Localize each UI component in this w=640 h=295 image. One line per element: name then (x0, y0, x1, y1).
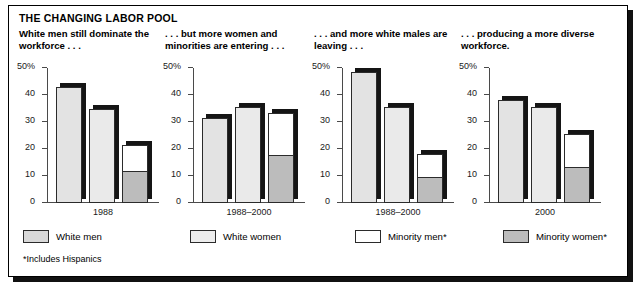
y-axis-tick: 20 (484, 148, 489, 149)
panel-title: . . . but more women and minorities are … (165, 28, 315, 51)
legend-item[interactable]: White men (23, 230, 102, 243)
white-men-swatch (23, 230, 49, 243)
bar-segment-minority-women (565, 168, 589, 202)
y-axis-tick: 20 (337, 148, 342, 149)
bar-body (498, 100, 524, 203)
bar-minority (564, 134, 590, 203)
y-axis-tick: 0 (337, 202, 342, 203)
panel-title: . . . producing a more diverse workforce… (461, 28, 611, 51)
y-axis-tick-label: 50% (17, 61, 35, 71)
y-axis-tick-label: 10 (171, 169, 181, 179)
bar-white-men (351, 72, 377, 203)
bar-body (564, 134, 590, 203)
bar-white-men (56, 87, 82, 203)
legend-item[interactable]: White women (190, 230, 281, 243)
y-axis-tick: 50% (188, 67, 193, 68)
legend-label: White women (223, 231, 281, 242)
legend-item[interactable]: Minority women* (503, 230, 607, 243)
bar-minority (417, 154, 443, 203)
y-axis-tick-label: 30 (171, 115, 181, 125)
y-axis-tick-label: 20 (467, 142, 477, 152)
plot-area: 50%4030201002000 (489, 68, 601, 203)
y-axis-tick: 20 (188, 148, 193, 149)
y-axis-tick: 30 (484, 121, 489, 122)
bar-segment-minority-men (123, 146, 147, 172)
y-axis-tick-label: 30 (25, 115, 35, 125)
plot-area: 50%4030201001988–2000 (342, 68, 454, 203)
bar-body (351, 72, 377, 203)
y-axis-tick-label: 40 (467, 88, 477, 98)
bar-body (56, 87, 82, 203)
y-axis-line (342, 68, 343, 203)
plot-area: 50%4030201001988 (47, 68, 159, 203)
minority-women-swatch (503, 230, 529, 243)
y-axis-tick-label: 40 (320, 88, 330, 98)
bar-white-men (202, 118, 228, 203)
y-axis-tick: 40 (188, 94, 193, 95)
y-axis-tick: 50% (42, 67, 47, 68)
y-axis-tick: 30 (188, 121, 193, 122)
y-axis-tick-label: 30 (320, 115, 330, 125)
footnote: *Includes Hispanics (23, 254, 102, 264)
y-axis-line (193, 68, 194, 203)
y-axis-tick: 50% (337, 67, 342, 68)
y-axis-tick-label: 30 (467, 115, 477, 125)
y-axis-tick: 0 (484, 202, 489, 203)
bar-white-women (531, 107, 557, 203)
y-axis-tick: 40 (484, 94, 489, 95)
y-axis-tick-label: 10 (320, 169, 330, 179)
chart-figure: THE CHANGING LABOR POOL White men still … (8, 5, 628, 277)
y-axis-tick-label: 10 (467, 169, 477, 179)
chart-panel-4: . . . producing a more diverse workforce… (459, 28, 611, 223)
y-axis-tick-label: 20 (171, 142, 181, 152)
y-axis-tick-label: 0 (30, 196, 35, 206)
y-axis-tick-label: 10 (25, 169, 35, 179)
bar-segment-minority-women (418, 178, 442, 202)
bar-body (122, 145, 148, 203)
bar-segment-minority-men (418, 155, 442, 177)
legend-label: White men (56, 231, 102, 242)
y-axis-tick-label: 20 (25, 142, 35, 152)
y-axis-tick: 10 (337, 175, 342, 176)
y-axis-tick: 30 (42, 121, 47, 122)
y-axis-line (489, 68, 490, 203)
chart-panel-2: . . . but more women and minorities are … (163, 28, 315, 223)
legend-label: Minority men* (388, 231, 447, 242)
bar-segment-minority-women (123, 172, 147, 202)
bar-body (531, 107, 557, 203)
y-axis-tick: 10 (42, 175, 47, 176)
bar-body (89, 109, 115, 204)
bar-white-men (498, 100, 524, 203)
x-axis-label: 1988–2000 (342, 207, 454, 217)
bar-body (202, 118, 228, 203)
page-title: THE CHANGING LABOR POOL (19, 12, 178, 24)
bar-body (235, 107, 261, 203)
bar-white-women (384, 107, 410, 203)
bar-body (384, 107, 410, 203)
y-axis-tick-label: 20 (320, 142, 330, 152)
minority-men-swatch (355, 230, 381, 243)
bar-body (417, 154, 443, 203)
bar-minority (268, 113, 294, 203)
y-axis-tick: 10 (188, 175, 193, 176)
x-axis-label: 1988 (47, 207, 159, 217)
panel-title: White men still dominate the workforce .… (19, 28, 169, 51)
white-women-swatch (190, 230, 216, 243)
bar-segment-minority-women (269, 156, 293, 202)
y-axis-tick-label: 0 (472, 196, 477, 206)
legend-label: Minority women* (536, 231, 607, 242)
y-axis-tick: 30 (337, 121, 342, 122)
bar-body (268, 113, 294, 203)
y-axis-tick: 10 (484, 175, 489, 176)
bar-white-women (89, 109, 115, 204)
bar-segment-minority-men (269, 114, 293, 157)
y-axis-tick: 0 (42, 202, 47, 203)
y-axis-tick: 20 (42, 148, 47, 149)
y-axis-tick-label: 0 (176, 196, 181, 206)
y-axis-tick-label: 40 (25, 88, 35, 98)
y-axis-tick: 50% (484, 67, 489, 68)
chart-panel-1: White men still dominate the workforce .… (17, 28, 169, 223)
legend-item[interactable]: Minority men* (355, 230, 447, 243)
bar-segment-minority-men (565, 135, 589, 168)
plot-area: 50%4030201001988–2000 (193, 68, 305, 203)
